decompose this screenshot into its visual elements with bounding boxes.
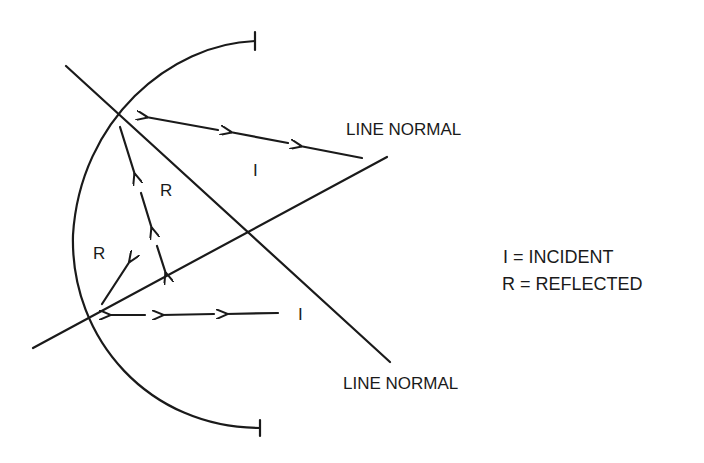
incident-ray-lower [109, 313, 278, 315]
legend-incident: I = INCIDENT [503, 247, 614, 267]
incident-ray-upper [146, 117, 362, 158]
line-normal-upper-label: LINE NORMAL [346, 120, 461, 139]
incident-upper-label: I [253, 161, 258, 180]
reflection-diagram: LINE NORMAL LINE NORMAL I I R R I = INCI… [0, 0, 704, 463]
legend: I = INCIDENT R = REFLECTED [502, 247, 643, 294]
line-normal-upper [66, 66, 390, 362]
incident-lower-label: I [298, 305, 303, 324]
legend-reflected: R = REFLECTED [502, 274, 643, 294]
line-normal-lower-label: LINE NORMAL [343, 374, 458, 393]
reflected-lower-label: R [93, 244, 105, 263]
reflected-ray-down [120, 127, 166, 274]
reflected-upper-label: R [160, 181, 172, 200]
line-normal-lower [33, 157, 387, 348]
